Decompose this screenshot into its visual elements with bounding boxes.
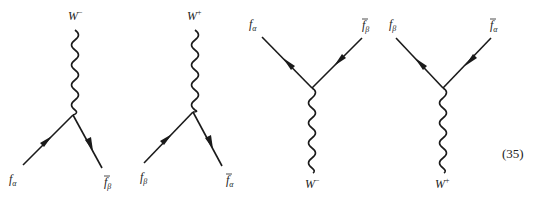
f-beta-bar-label: fβ [362, 18, 369, 34]
equation-number: (35) [502, 146, 524, 161]
w-plus-label: W+ [435, 176, 450, 191]
arrow-icon [465, 54, 477, 66]
w-minus-label: W− [68, 8, 83, 23]
f-alpha-label: fα [249, 17, 257, 33]
w-boson-wavy-line [72, 30, 79, 115]
f-beta-label: fβ [389, 17, 396, 33]
f-beta-bar-label: fβ [104, 175, 111, 191]
f-alpha-bar-label: fα [490, 18, 498, 34]
f-beta-label: fβ [140, 170, 147, 186]
f-alpha-label: fα [9, 172, 17, 188]
w-boson-wavy-line [309, 88, 316, 173]
w-boson-wavy-line [440, 88, 447, 173]
feynman-diagrams-figure: W− fα fβ W+ fβ fα fα fβ W− fβ fα [0, 0, 540, 198]
w-minus-label: W− [305, 176, 320, 191]
w-boson-wavy-line [192, 30, 199, 112]
diagram-4-w-plus-production: fβ fα W+ [389, 17, 498, 191]
w-plus-label: W+ [187, 8, 202, 23]
diagram-3-w-minus-production: fα fβ W− [249, 17, 369, 191]
diagram-2-w-plus-decay: W+ fβ fα [140, 8, 234, 189]
f-alpha-bar-label: fα [226, 173, 234, 189]
diagram-1-w-minus-decay: W− fα fβ [9, 8, 111, 191]
